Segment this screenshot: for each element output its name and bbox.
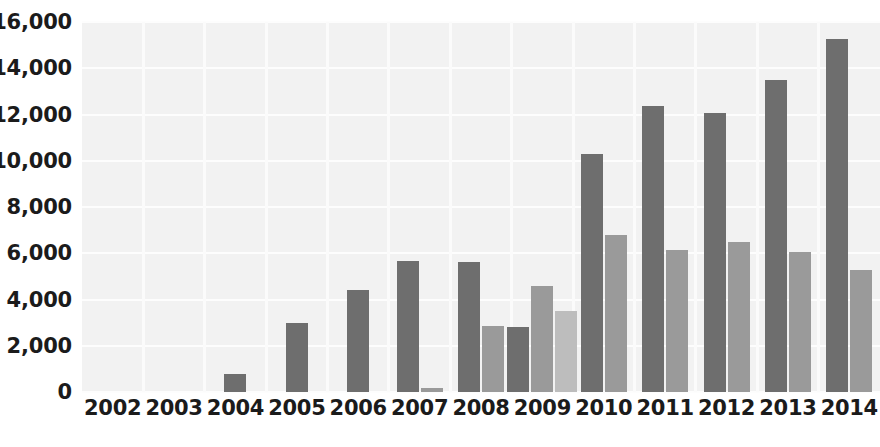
bar-group [573,22,634,392]
bar-group [634,22,695,392]
plot-area [82,22,880,392]
x-axis-tick-label: 2013 [759,396,816,420]
bar [421,388,443,392]
bar-group [266,22,327,392]
bar [458,262,480,392]
x-axis-tick-label: 2002 [84,396,141,420]
bar [397,261,419,392]
y-axis-tick-label: 8,000 [7,195,72,219]
bar-group [82,22,143,392]
bar-group [328,22,389,392]
bar [704,113,726,392]
x-axis-tick-label: 2003 [145,396,202,420]
y-axis: 02,0004,0006,0008,00010,00012,00014,0001… [0,0,78,400]
x-axis-tick-label: 2008 [452,396,509,420]
x-axis-tick-label: 2007 [391,396,448,420]
y-axis-tick-label: 2,000 [7,334,72,358]
bar [666,250,688,392]
x-axis-tick-label: 2009 [514,396,571,420]
y-axis-tick-label: 14,000 [0,56,72,80]
bar [605,235,627,392]
x-axis-tick-label: 2014 [821,396,878,420]
bar [765,80,787,392]
bar [347,290,369,392]
y-axis-tick-label: 6,000 [7,241,72,265]
bar-group [512,22,573,392]
bar [789,252,811,392]
bar-group [205,22,266,392]
bar [507,327,529,392]
bar-group [696,22,757,392]
bar-group [389,22,450,392]
bar-group [450,22,511,392]
y-axis-tick-label: 4,000 [7,288,72,312]
bar [482,326,504,392]
bar [531,286,553,392]
bar [728,242,750,392]
x-axis-tick-label: 2010 [575,396,632,420]
x-axis: 2002200320042005200620072008200920102011… [82,396,880,436]
x-axis-tick-label: 2006 [330,396,387,420]
bars-layer [82,22,880,392]
y-axis-tick-label: 0 [58,380,72,404]
bar [826,39,848,392]
y-axis-tick-label: 12,000 [0,103,72,127]
y-axis-tick-label: 10,000 [0,149,72,173]
bar-chart: 02,0004,0006,0008,00010,00012,00014,0001… [0,0,880,447]
bar [850,270,872,392]
bar [286,323,308,392]
x-axis-tick-label: 2005 [268,396,325,420]
bar-group [757,22,818,392]
bar-group [819,22,880,392]
x-axis-tick-label: 2004 [207,396,264,420]
bar [224,374,246,392]
y-axis-tick-label: 16,000 [0,10,72,34]
bar [581,154,603,392]
bar [642,106,664,392]
x-axis-tick-label: 2012 [698,396,755,420]
x-axis-tick-label: 2011 [637,396,694,420]
bar-group [143,22,204,392]
